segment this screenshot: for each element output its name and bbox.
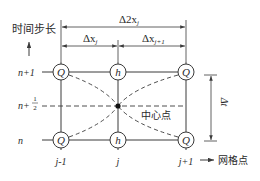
cell-spacing-dimensions: Δxj Δxj+1 bbox=[62, 32, 185, 46]
svg-text:Q: Q bbox=[182, 134, 190, 146]
svg-text:1: 1 bbox=[33, 95, 37, 103]
dimension-ticks bbox=[61, 20, 186, 62]
node-top-right: Q bbox=[178, 64, 194, 80]
total-spacing-label: Δ2xj bbox=[119, 13, 139, 27]
space-index-center: j bbox=[115, 156, 120, 167]
right-spacing-label: Δxj+1 bbox=[142, 32, 165, 46]
svg-text:Q: Q bbox=[57, 134, 65, 146]
time-axis-label: 时间步长 bbox=[12, 23, 56, 36]
svg-text:Q: Q bbox=[57, 66, 65, 78]
time-level-half: n+ 1 2 bbox=[18, 95, 38, 112]
total-spacing-dimension: Δ2xj bbox=[62, 13, 185, 27]
node-bottom-right: Q bbox=[178, 132, 194, 148]
time-level-upper: n+1 bbox=[18, 67, 35, 78]
svg-text:h: h bbox=[115, 134, 121, 146]
node-bottom-center: h bbox=[110, 132, 126, 148]
node-bottom-left: Q bbox=[53, 132, 69, 148]
time-level-lower: n bbox=[18, 135, 23, 146]
node-top-left: Q bbox=[53, 64, 69, 80]
svg-text:n+: n+ bbox=[18, 100, 30, 111]
svg-text:h: h bbox=[115, 66, 121, 78]
time-axis: 时间步长 bbox=[12, 23, 56, 56]
space-axis-label: 网格点 bbox=[218, 154, 248, 166]
center-point-icon bbox=[115, 103, 120, 108]
space-index-right: j+1 bbox=[177, 156, 194, 167]
space-index-left: j-1 bbox=[53, 156, 66, 167]
left-spacing-label: Δxj bbox=[83, 32, 98, 46]
center-point-label: 中心点 bbox=[141, 109, 171, 121]
node-top-center: h bbox=[110, 64, 126, 80]
svg-text:Q: Q bbox=[182, 66, 190, 78]
time-step-dimension: Δt bbox=[204, 75, 230, 141]
staggered-grid-diagram: 时间步长 Δ2xj Δxj Δxj+1 中心点 bbox=[0, 0, 260, 181]
time-step-label: Δt bbox=[219, 97, 230, 107]
svg-text:2: 2 bbox=[33, 104, 37, 112]
